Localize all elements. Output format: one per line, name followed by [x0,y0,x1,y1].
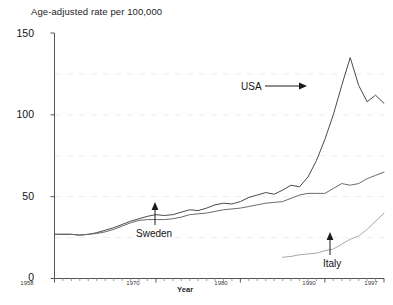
chart-container: Age-adjusted rate per 100,000 Year 150 1… [0,0,393,305]
annotation-arrows [152,83,334,256]
gridlines [55,74,385,238]
series-lines [55,58,385,258]
series-line-usa [55,58,385,236]
axis-ticks [51,33,385,283]
series-line-italy [283,213,384,257]
plot-area [0,0,393,305]
